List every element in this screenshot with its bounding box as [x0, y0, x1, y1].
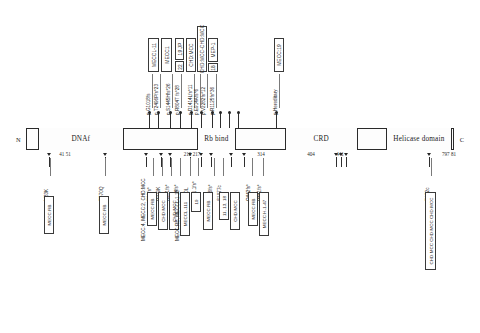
group-box-label: 22 — [177, 64, 182, 70]
group-box-upper: 22 — [175, 61, 184, 72]
group-box-upper: MECC1 — [161, 38, 172, 72]
leader-line — [172, 74, 173, 108]
mutation-tick-head — [219, 111, 222, 114]
group-box-label: MECC:RB — [206, 201, 211, 222]
domain-label-helicase: Helicase domain — [393, 135, 444, 143]
group-box-label: MECC:RB — [102, 205, 107, 226]
residue-number: 210 217 — [184, 151, 201, 157]
group-box-label: CHD:MCC — [233, 200, 238, 221]
leader-line — [214, 158, 215, 176]
mutation-tick-upper — [229, 112, 230, 128]
group-box-label: 19 — [194, 199, 199, 204]
mutation-label-upper: p.V2282fs*12 — [201, 87, 206, 115]
mutation-label-upper: p.D1414Lfs*11 — [188, 84, 193, 115]
mutation-arrow-head — [199, 153, 203, 156]
group-box-label: 11, 13, 18 — [222, 196, 227, 216]
leader-line — [50, 158, 51, 176]
mutation-tick-head — [228, 111, 231, 114]
mutation-arrow-head — [47, 153, 51, 156]
mutation-arrow-head — [209, 153, 213, 156]
domain-segment-helicase: Helicase domain — [386, 128, 453, 150]
mutation-label-upper: p.G1018fs — [146, 93, 151, 115]
n-terminus-label: N — [16, 136, 21, 143]
c-terminus-label: C — [460, 136, 464, 143]
mutation-arrow-head — [242, 153, 246, 156]
group-box-lower: MECC:RB — [99, 196, 109, 234]
mutation-label-upper: p.S1445Hfs*26 — [166, 83, 171, 115]
group-box-label: 18 — [211, 65, 216, 71]
group-box-label: MECC:H-1-47 — [262, 200, 267, 229]
domain-label-dna: DNAf — [71, 135, 90, 143]
group-side-label: MECC:RB, MECCL-1 11 — [175, 190, 180, 241]
group-box-upper: CHD:MCC — [186, 38, 196, 72]
leader-line — [223, 158, 224, 176]
mutation-arrow-head — [188, 153, 192, 156]
leader-line — [252, 158, 253, 176]
leader-line — [152, 74, 153, 108]
leader-line — [105, 158, 106, 176]
group-box-label: MECCL-11 — [151, 43, 156, 67]
leader-line — [190, 158, 191, 176]
group-box-upper: MECC:19 — [274, 38, 284, 72]
mutation-tick-upper — [220, 112, 221, 128]
group-box-lower: 19 — [191, 192, 201, 212]
domain-segment-rb: Rb bind — [197, 128, 236, 150]
mutation-tick-lower — [201, 157, 202, 167]
leader-line — [171, 158, 172, 176]
mutation-arrow-head — [103, 153, 107, 156]
group-box-label: CHD:MCC — [189, 43, 194, 66]
protein-bar: NCDNAfRb bindCRDHelicase domain — [26, 128, 454, 150]
mutation-tick-lower — [211, 157, 212, 167]
mutation-label-upper: p.E914Afs*6 — [194, 89, 199, 115]
group-box-label: 19 JP — [177, 43, 182, 56]
mutation-tick-lower — [231, 157, 232, 167]
leader-line — [216, 74, 217, 108]
group-box-lower: CHD:MCC CHD:MCC CHD:MCC — [425, 192, 436, 270]
mutation-tick-lower — [341, 157, 342, 167]
group-box-lower: MECC:RB — [44, 196, 54, 234]
mutation-tick-lower — [336, 157, 337, 167]
group-box-lower: MECC:RB — [203, 192, 213, 230]
leader-line — [198, 158, 199, 176]
mutation-arrow-head — [344, 153, 348, 156]
mutation-tick-lower — [346, 157, 347, 167]
mutation-tick-head — [237, 111, 240, 114]
mutation-label-upper: p.R1125fs*36 — [210, 87, 215, 115]
mutation-arrow-head — [339, 153, 343, 156]
mutation-tick-upper — [180, 112, 181, 128]
mutation-arrow-head — [159, 153, 163, 156]
group-box-label: MECC:19 — [277, 44, 282, 66]
mutation-arrow-head — [334, 153, 338, 156]
group-box-lower: MECCL-111 — [180, 192, 190, 236]
mutation-arrow-head — [144, 153, 148, 156]
leader-line — [153, 158, 154, 176]
leader-line — [162, 158, 163, 176]
group-box-label: MEP-1 — [211, 42, 216, 57]
group-side-label: MECC:4, MECC:2, CHD:MCC — [141, 178, 146, 241]
domain-label-crd: CRD — [314, 135, 329, 143]
group-box-lower: CHD:MCC — [230, 192, 240, 230]
group-box-label: MECCL-111 — [183, 202, 188, 226]
residue-number: 314 — [257, 151, 265, 157]
group-box-upper: MECCL-11 — [148, 38, 159, 72]
protein-domain-figure: NCDNAfRb bindCRDHelicase domain41 51210 … — [0, 0, 480, 333]
residue-number: 797 81 — [442, 151, 456, 157]
group-box-upper: CHD:MCC-CHD:MCC — [197, 26, 207, 72]
mutation-label-upper: p.T2496Pfs*23 — [154, 84, 159, 115]
group-box-lower: MECC:RB — [248, 192, 258, 226]
domain-segment-dna: DNAf — [38, 128, 124, 150]
mutation-tick-lower — [244, 157, 245, 167]
group-box-label: MECC1 — [164, 46, 169, 63]
leader-line — [180, 158, 181, 176]
mutation-arrow-head — [168, 153, 172, 156]
residue-number: 404 — [307, 151, 315, 157]
group-box-lower: MECC:RB — [147, 192, 157, 226]
leader-line — [263, 158, 264, 176]
domain-segment-crd: CRD — [285, 128, 358, 150]
group-box-label: CHD:MCC-CHD:MCC — [200, 25, 205, 73]
leader-line — [160, 74, 161, 108]
mutation-tick-upper — [238, 112, 239, 128]
group-box-label: CHD:MCC CHD:MCC CHD:MCC — [428, 198, 433, 265]
mutation-arrow-head — [229, 153, 233, 156]
group-box-lower: MECC:H-1-47 — [259, 192, 269, 236]
